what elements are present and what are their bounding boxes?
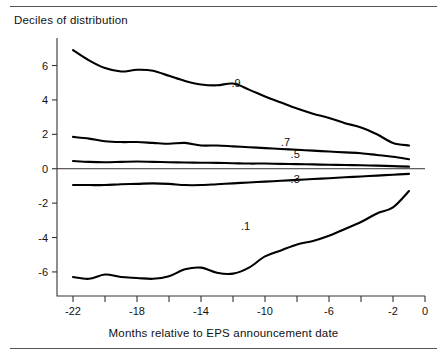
axes-group: [57, 38, 425, 296]
series-labels-group: .9.7.5.3.1: [231, 77, 299, 232]
x-tick-label: -10: [257, 305, 273, 317]
series-label-p9: .9: [231, 77, 240, 89]
y-tick-label: 2: [42, 128, 48, 140]
y-tick-label: 4: [42, 94, 48, 106]
x-tick-label: -6: [324, 305, 334, 317]
series-paths-group: [73, 50, 409, 279]
series-line-p7: [73, 137, 409, 159]
y-tick-label: -4: [38, 232, 48, 244]
series-label-p3: .3: [291, 173, 300, 185]
y-tick-label: -2: [38, 197, 48, 209]
x-tick-label: -2: [388, 305, 398, 317]
x-tick-label: -14: [193, 305, 209, 317]
axis-spines: [57, 38, 425, 296]
series-line-p9: [73, 50, 409, 145]
y-tick-label: -6: [38, 266, 48, 278]
x-tick-label: 0: [422, 305, 428, 317]
x-tick-label: -22: [65, 305, 81, 317]
x-axis-title: Months relative to EPS announcement date: [0, 327, 447, 339]
series-label-p7: .7: [281, 136, 290, 148]
y-tick-label: 0: [42, 163, 48, 175]
series-line-p1: [73, 191, 409, 279]
line-chart: 6420-2-4-6-22-18-14-10-6-20 .9.7.5.3.1: [0, 0, 447, 356]
x-tick-label: -18: [129, 305, 145, 317]
bottom-divider-rule: [10, 348, 437, 349]
figure-container: Deciles of distribution 6420-2-4-6-22-18…: [0, 0, 447, 356]
series-label-p1: .1: [241, 220, 250, 232]
y-tick-label: 6: [42, 60, 48, 72]
tick-labels-group: 6420-2-4-6-22-18-14-10-6-20: [38, 60, 428, 317]
series-line-p5: [73, 161, 409, 167]
series-label-p5: .5: [291, 148, 300, 160]
series-line-p3: [73, 174, 409, 185]
